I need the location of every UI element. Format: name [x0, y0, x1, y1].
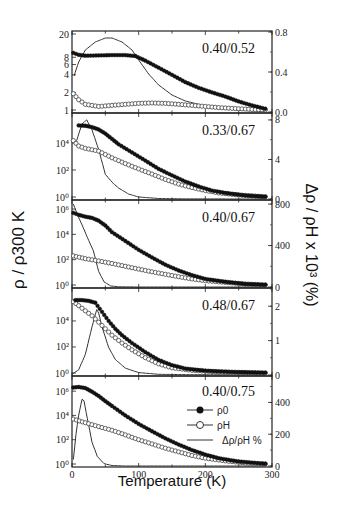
legend-label: Δρ/ρH % [222, 435, 262, 446]
left-tick-label: 20 [59, 29, 69, 40]
left-tick-label: 10⁰ [55, 459, 69, 470]
x-tick-label: 300 [265, 469, 280, 480]
left-tick-label: 10⁰ [55, 368, 69, 379]
legend: ρ0ρHΔρ/ρH % [187, 405, 262, 446]
left-tick-label: 10⁶ [56, 204, 70, 215]
left-tick-label: 4 [64, 69, 69, 80]
right-tick-label: 400 [275, 397, 290, 408]
panel-2: 10⁰10²10⁴0480.33/0.67 [55, 113, 280, 205]
left-tick-label: 10⁶ [56, 386, 70, 397]
legend-label: ρH [217, 420, 230, 431]
right-axis-title: Δρ / ρH x 10³ (%) [303, 183, 320, 306]
panel-label: 0.40/0.67 [202, 210, 255, 225]
panel-3: 10⁰10²10⁴10⁶04008000.40/0.67 [55, 199, 290, 293]
right-tick-label: 4 [275, 154, 280, 165]
panel-1: 12468200.00.40.80.40/0.52 [59, 27, 288, 118]
left-tick-label: 10⁴ [56, 229, 70, 240]
right-tick-label: 2 [275, 301, 280, 312]
left-tick-label: 10⁴ [56, 138, 70, 149]
right-tick-label: 200 [275, 429, 290, 440]
right-tick-label: 1 [275, 335, 280, 346]
drho-curve [73, 399, 265, 466]
chart-figure: 12468200.00.40.80.40/0.5210⁰10²10⁴0480.3… [0, 0, 337, 522]
panel-label: 0.48/0.67 [202, 298, 255, 313]
right-tick-label: 800 [275, 199, 290, 210]
right-tick-label: 400 [275, 240, 290, 251]
left-tick-label: 8 [64, 52, 69, 63]
left-tick-label: 10² [56, 341, 69, 352]
left-tick-label: 10² [56, 434, 69, 445]
right-tick-label: 0 [275, 282, 280, 293]
right-tick-label: 8 [275, 114, 280, 125]
left-axis-title: ρ / ρ300 K [9, 210, 28, 289]
left-tick-label: 2 [64, 87, 69, 98]
right-tick-label: 0 [275, 370, 280, 381]
legend-label: ρ0 [217, 405, 229, 416]
panel-5: 10⁰10²10⁴10⁶02004000.40/0.75ρ0ρHΔρ/ρH %0… [55, 376, 290, 480]
left-tick-label: 10⁴ [56, 410, 70, 421]
left-tick-label: 1 [64, 105, 69, 116]
panel-label: 0.40/0.52 [202, 41, 255, 56]
right-tick-label: 0.4 [275, 67, 288, 78]
x-tick-label: 0 [70, 469, 75, 480]
left-tick-label: 10² [56, 165, 69, 176]
right-tick-label: 0.8 [275, 27, 288, 38]
left-tick-label: 10² [56, 254, 69, 265]
left-tick-label: 10⁰ [55, 280, 69, 291]
left-tick-label: 10⁰ [55, 192, 69, 203]
x-axis-title: Temperature (K) [118, 472, 226, 489]
panel-4: 10⁰10²10⁴0120.48/0.67 [55, 288, 280, 381]
panel-label: 0.33/0.67 [202, 123, 255, 138]
panel-label: 0.40/0.75 [202, 384, 255, 399]
left-tick-label: 10⁴ [56, 315, 70, 326]
